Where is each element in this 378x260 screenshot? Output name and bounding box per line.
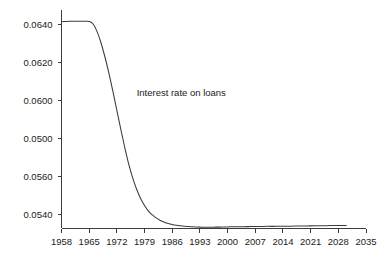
x-tick-label: 2014 <box>272 236 293 247</box>
series-group <box>62 21 347 227</box>
series-annotation-label: Interest rate on loans <box>137 87 226 98</box>
x-tick-label: 1958 <box>51 236 72 247</box>
y-tick-label: 0.0620 <box>23 57 52 68</box>
x-tick-label: 1972 <box>106 236 127 247</box>
chart-figure: 0.06400.06200.06000.05000.05600.0540 195… <box>0 0 378 260</box>
y-tick-marks <box>58 24 62 214</box>
y-tick-label: 0.0640 <box>23 19 52 30</box>
x-tick-label: 1965 <box>79 236 100 247</box>
axes-group <box>62 10 367 229</box>
x-tick-label: 2035 <box>355 236 376 247</box>
x-tick-label: 1986 <box>162 236 183 247</box>
x-tick-label: 1993 <box>189 236 210 247</box>
x-tick-marks <box>62 229 367 234</box>
annotations-group: Interest rate on loans <box>137 87 226 98</box>
y-tick-label: 0.0540 <box>23 209 52 220</box>
y-tick-label: 0.0600 <box>23 95 52 106</box>
x-tick-label: 2000 <box>217 236 238 247</box>
y-tick-labels: 0.06400.06200.06000.05000.05600.0540 <box>23 19 52 220</box>
y-tick-label: 0.0560 <box>23 171 52 182</box>
line-chart: 0.06400.06200.06000.05000.05600.0540 195… <box>0 0 378 260</box>
x-tick-label: 2007 <box>245 236 266 247</box>
y-tick-label: 0.0500 <box>23 133 52 144</box>
x-tick-labels: 1958196519721979198619932000200720142021… <box>51 236 377 247</box>
x-tick-label: 1979 <box>134 236 155 247</box>
x-tick-label: 2028 <box>328 236 349 247</box>
series-line <box>62 21 347 227</box>
x-tick-label: 2021 <box>300 236 321 247</box>
